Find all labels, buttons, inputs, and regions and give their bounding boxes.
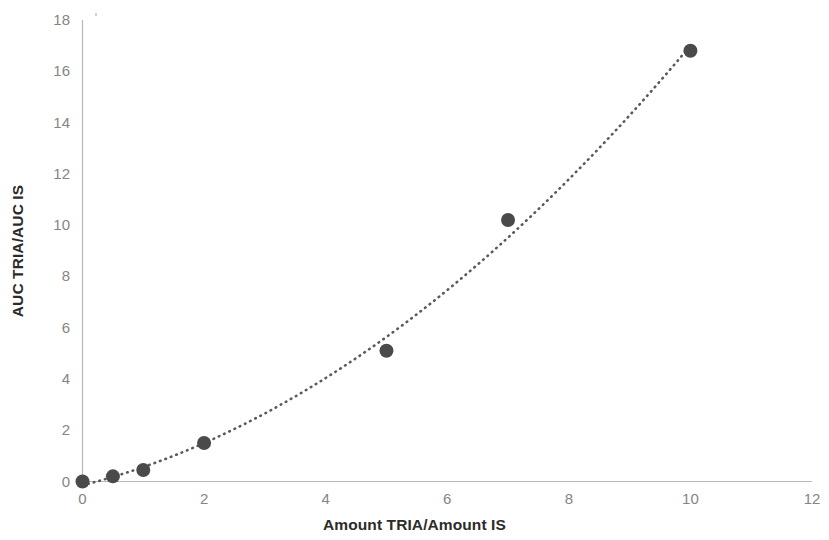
plot-svg xyxy=(0,0,829,540)
data-point xyxy=(106,469,120,483)
data-point xyxy=(379,344,393,358)
data-point xyxy=(683,44,697,58)
trendline-path xyxy=(83,46,691,486)
data-point xyxy=(76,475,90,489)
data-point-group xyxy=(76,44,698,489)
data-point xyxy=(197,436,211,450)
chart-container: AUC TRIA/AUC IS Amount TRIA/Amount IS 02… xyxy=(0,0,829,540)
data-point xyxy=(136,463,150,477)
data-point xyxy=(501,213,515,227)
